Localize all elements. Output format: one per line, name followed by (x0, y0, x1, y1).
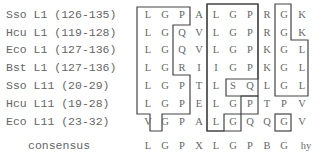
residue-cell: G (225, 115, 241, 129)
residue-cell: L (140, 79, 156, 93)
residue-cell: L (140, 26, 156, 40)
residue-cell: G (276, 79, 292, 93)
residue-cell: T (259, 97, 275, 111)
consensus-residue: B (259, 139, 275, 153)
row-label: Sso L11 (20-29) (6, 79, 110, 93)
residue-cell: Q (242, 79, 258, 93)
residue-cell: G (157, 61, 173, 75)
residue-cell: L (140, 61, 156, 75)
residue-cell: G (157, 43, 173, 57)
residue-cell: G (157, 26, 173, 40)
row-label: Hcu L11 (19-28) (6, 97, 110, 111)
residue-cell: G (225, 26, 241, 40)
residue-cell: A (191, 115, 207, 129)
residue-cell: G (276, 26, 292, 40)
residue-cell: L (140, 8, 156, 22)
residue-cell: A (191, 8, 207, 22)
consensus-label: consensus (28, 139, 90, 153)
residue-cell: I (208, 61, 224, 75)
row-label: Sso L1 (126-135) (6, 8, 116, 22)
consensus-residue: L (208, 139, 224, 153)
residue-cell: V (191, 43, 207, 57)
consensus-residue: hy (298, 139, 314, 153)
residue-cell: L (208, 26, 224, 40)
consensus-residue: P (174, 139, 190, 153)
residue-cell: L (140, 43, 156, 57)
consensus-residue: L (140, 139, 156, 153)
residue-cell: Q (174, 43, 190, 57)
residue-cell: K (294, 26, 310, 40)
residue-cell: P (174, 8, 190, 22)
residue-cell: P (242, 61, 258, 75)
residue-cell: L (208, 115, 224, 129)
residue-cell: P (174, 115, 190, 129)
consensus-residue: X (191, 139, 207, 153)
residue-cell: G (276, 8, 292, 22)
residue-cell: L (259, 79, 275, 93)
residue-cell: L (208, 97, 224, 111)
conserved-region-boxes (0, 0, 321, 153)
residue-cell: R (259, 26, 275, 40)
residue-cell: Q (242, 115, 258, 129)
residue-cell: G (225, 8, 241, 22)
residue-cell: R (174, 61, 190, 75)
residue-cell: L (294, 43, 310, 57)
residue-cell: G (157, 8, 173, 22)
consensus-residue: G (157, 139, 173, 153)
residue-cell: P (242, 8, 258, 22)
residue-cell: Q (174, 26, 190, 40)
residue-cell: L (294, 79, 310, 93)
residue-cell: E (191, 97, 207, 111)
residue-cell: V (191, 26, 207, 40)
residue-cell: P (242, 26, 258, 40)
residue-cell: P (242, 43, 258, 57)
residue-cell: L (208, 43, 224, 57)
residue-cell: K (259, 61, 275, 75)
residue-cell: S (225, 79, 241, 93)
residue-cell: G (157, 97, 173, 111)
row-label: Hcu L1 (119-128) (6, 26, 116, 40)
residue-cell: K (294, 8, 310, 22)
residue-cell: V (294, 115, 310, 129)
residue-cell: L (294, 61, 310, 75)
residue-cell: L (208, 8, 224, 22)
residue-cell: L (140, 97, 156, 111)
row-label: Eco L1 (127-136) (6, 43, 116, 57)
residue-cell: G (157, 79, 173, 93)
residue-cell: I (191, 61, 207, 75)
residue-cell: P (174, 97, 190, 111)
residue-cell: G (276, 61, 292, 75)
consensus-residue: G (225, 139, 241, 153)
residue-cell: G (225, 97, 241, 111)
residue-cell: P (174, 79, 190, 93)
consensus-residue: P (242, 139, 258, 153)
consensus-residue: G (276, 139, 292, 153)
residue-cell: G (225, 43, 241, 57)
residue-cell: G (276, 43, 292, 57)
residue-cell: P (242, 97, 258, 111)
residue-cell: P (276, 97, 292, 111)
row-label: Eco L11 (23-32) (6, 115, 110, 129)
residue-cell: T (191, 79, 207, 93)
residue-cell: G (225, 61, 241, 75)
residue-cell: V (294, 97, 310, 111)
residue-cell: V (140, 115, 156, 129)
residue-cell: Q (259, 115, 275, 129)
residue-cell: G (276, 115, 292, 129)
residue-cell: R (259, 8, 275, 22)
residue-cell: K (259, 43, 275, 57)
residue-cell: G (157, 115, 173, 129)
row-label: Bst L1 (127-136) (6, 61, 116, 75)
residue-cell: L (208, 79, 224, 93)
